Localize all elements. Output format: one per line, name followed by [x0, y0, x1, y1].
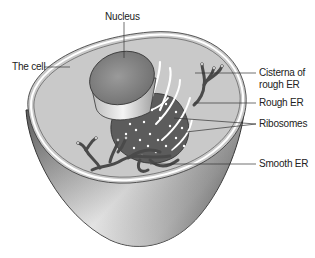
rough-er-label: Rough ER: [259, 97, 304, 109]
smooth-er-label: Smooth ER: [259, 158, 308, 170]
cell-label: The cell: [12, 61, 45, 73]
cisterna-label-line1: Cisterna of: [259, 67, 305, 79]
cisterna-label-line2: rough ER: [259, 79, 300, 91]
nucleus-label: Nucleus: [105, 11, 140, 23]
ribosomes-label: Ribosomes: [259, 118, 307, 130]
